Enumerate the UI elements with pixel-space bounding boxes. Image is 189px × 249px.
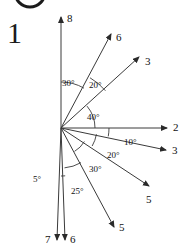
partial-circle-crop <box>15 0 45 7</box>
ray-label-6-1: 6 <box>116 32 122 43</box>
angle-label-6: 25° <box>71 186 84 196</box>
ray-group <box>57 17 167 240</box>
arc-20-3-to-5 <box>92 134 96 146</box>
ray-label-2-3: 2 <box>173 122 179 133</box>
angle-label-0: 30° <box>62 78 75 88</box>
ray-label-5-5: 5 <box>146 194 152 205</box>
arc-10-2-to-3 <box>108 128 109 136</box>
angle-label-5: 30° <box>89 164 102 174</box>
angle-label-4: 20° <box>107 150 120 160</box>
angle-label-3: 10° <box>124 137 137 147</box>
angle-label-2: 40° <box>87 112 100 122</box>
ray-label-7-8: 7 <box>45 234 51 245</box>
ray-3-2 <box>61 57 139 128</box>
figure-canvas: 1 863235567 30°20°40°10°20°30°25°5° <box>0 0 189 249</box>
ray-label-6-7: 6 <box>70 234 76 245</box>
ray-5-6 <box>61 128 114 227</box>
angle-arc-group <box>61 78 109 176</box>
ray-label-5-6: 5 <box>119 222 125 233</box>
ray-label-3-4: 3 <box>172 145 178 156</box>
ray-7-8 <box>57 128 61 240</box>
ray-label-3-2: 3 <box>145 56 151 67</box>
ray-label-8-0: 8 <box>67 13 73 24</box>
arc-25-5-to-6 <box>64 163 81 168</box>
ray-3-4 <box>61 128 166 150</box>
vector-angle-diagram <box>0 0 189 249</box>
angle-label-7: 5° <box>33 174 41 184</box>
angle-label-1: 20° <box>89 80 102 90</box>
ray-6-7 <box>61 128 65 240</box>
